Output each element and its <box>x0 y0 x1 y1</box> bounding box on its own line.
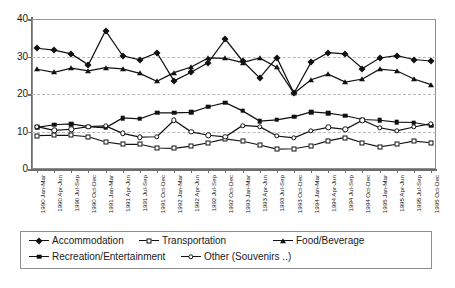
x-tick <box>37 169 38 173</box>
x-tick <box>397 169 398 173</box>
data-point-marker <box>172 110 177 115</box>
x-tick <box>140 169 141 173</box>
legend-label: Recreation/Entertainment <box>52 251 165 262</box>
data-point-marker <box>257 55 263 60</box>
data-point-marker <box>206 140 211 145</box>
x-tick <box>191 169 192 173</box>
x-tick <box>54 169 55 173</box>
x-tick <box>345 169 346 173</box>
x-tick-label: 1990 Oct-Dec <box>91 175 98 213</box>
data-point-marker <box>137 71 143 76</box>
legend-item-transportation[interactable]: Transportation <box>139 235 226 246</box>
x-tick-label: 1992 Jul-Sep <box>211 175 218 211</box>
data-point-marker <box>86 134 91 139</box>
x-axis-labels: 1990 Jan-Mar1990 Apr-Jun1990 Jul-Sep1990… <box>32 175 436 219</box>
x-tick-label: 1991 Apr-Jun <box>125 175 132 212</box>
x-tick <box>431 169 432 173</box>
data-point-marker <box>189 144 194 149</box>
x-tick <box>311 169 312 173</box>
data-point-marker <box>257 119 262 124</box>
bottom-text-fragment <box>18 277 238 288</box>
x-tick-label: 1993 Jul-Sep <box>279 175 286 211</box>
data-point-marker <box>308 77 314 82</box>
data-point-marker <box>292 115 297 120</box>
x-tick <box>123 169 124 173</box>
top-text-fragment <box>6 0 206 12</box>
x-tick-label: 1995 Jan-Mar <box>382 175 389 213</box>
data-point-marker <box>240 109 245 114</box>
plot-area <box>32 19 436 169</box>
x-tick-label: 1994 Jan-Mar <box>314 175 321 213</box>
x-tick-label: 1992 Apr-Jun <box>194 175 201 212</box>
data-point-marker <box>137 142 142 147</box>
legend-row: AccommodationTransportationFood/Beverage <box>21 235 431 252</box>
line-accommodation <box>37 31 431 94</box>
data-point-marker <box>257 143 262 148</box>
chart-screenshot: 010203040 1990 Jan-Mar1990 Apr-Jun1990 J… <box>0 0 455 288</box>
data-point-marker <box>274 147 279 152</box>
y-tick-label-30: 30 <box>2 52 28 62</box>
data-point-marker <box>188 64 194 69</box>
x-tick <box>174 169 175 173</box>
data-point-marker <box>240 139 245 144</box>
series-lines <box>32 19 436 169</box>
data-point-marker <box>309 110 314 115</box>
data-point-marker <box>291 91 297 96</box>
data-point-marker <box>85 68 91 73</box>
x-tick-label: 1991 Jul-Sep <box>142 175 149 211</box>
legend-symbol-open-circle-icon <box>188 254 193 259</box>
data-point-marker <box>411 76 417 81</box>
legend-symbol-diamond-icon <box>35 237 42 244</box>
data-point-marker <box>103 65 109 70</box>
legend-symbol-filled-square-icon <box>37 254 42 259</box>
x-tick-label: 1991 Jan-Mar <box>108 175 115 213</box>
chart-legend: AccommodationTransportationFood/Beverage… <box>20 231 432 269</box>
data-point-marker <box>325 71 331 76</box>
data-point-marker <box>52 133 57 138</box>
y-tick-label-40: 40 <box>2 14 28 24</box>
y-tick-label-20: 20 <box>2 89 28 99</box>
data-point-marker <box>394 142 399 147</box>
data-point-marker <box>223 100 228 105</box>
legend-item-other-souvenirs[interactable]: Other (Souvenirs ..) <box>181 251 291 262</box>
x-tick <box>71 169 72 173</box>
legend-marker-icon <box>29 252 49 261</box>
x-tick-label: 1993 Jan-Mar <box>245 175 252 213</box>
x-tick <box>414 169 415 173</box>
data-point-marker <box>429 140 434 145</box>
data-point-marker <box>326 111 331 116</box>
x-tick-label: 1992 Oct-Dec <box>228 175 235 213</box>
data-point-marker <box>120 66 126 71</box>
y-axis-labels: 010203040 <box>0 19 28 169</box>
data-point-marker <box>275 118 280 123</box>
data-point-marker <box>342 79 348 84</box>
data-point-marker <box>222 56 228 61</box>
data-point-marker <box>103 140 108 145</box>
x-tick-label: 1994 Jul-Sep <box>348 175 355 211</box>
legend-item-accommodation[interactable]: Accommodation <box>29 235 124 246</box>
legend-item-food-beverage[interactable]: Food/Beverage <box>273 235 364 246</box>
data-point-marker <box>189 110 194 115</box>
line-transportation <box>37 135 431 149</box>
x-tick-label: 1995 Oct-Dec <box>434 175 441 213</box>
x-tick-label: 1991 Oct-Dec <box>160 175 167 213</box>
data-point-marker <box>411 139 416 144</box>
data-point-marker <box>359 76 365 81</box>
x-tick <box>106 169 107 173</box>
legend-marker-icon <box>29 236 49 245</box>
data-point-marker <box>172 146 177 151</box>
x-tick <box>260 169 261 173</box>
x-tick <box>277 169 278 173</box>
x-tick-label: 1995 Apr-Jun <box>399 175 406 212</box>
data-point-marker <box>394 68 400 73</box>
x-tick <box>88 169 89 173</box>
legend-item-recreation-entertainment[interactable]: Recreation/Entertainment <box>29 251 165 262</box>
data-point-marker <box>120 142 125 147</box>
data-point-marker <box>377 67 383 72</box>
legend-label: Accommodation <box>52 235 124 246</box>
data-point-marker <box>120 116 125 121</box>
data-point-marker <box>137 116 142 121</box>
data-point-marker <box>343 113 348 118</box>
data-point-marker <box>377 144 382 149</box>
data-point-marker <box>35 133 40 138</box>
